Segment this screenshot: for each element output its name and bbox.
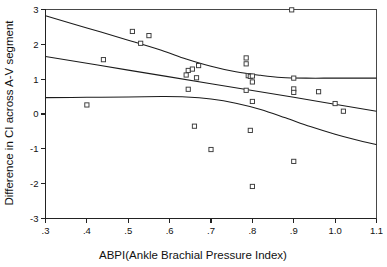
data-point-marker [290,8,294,12]
data-point-marker [250,74,254,78]
data-point-marker [186,87,190,91]
data-point-marker [292,159,296,163]
y-tick-label: 3 [33,4,38,15]
fit-curves-layer [46,16,377,145]
y-tick-label: -2 [30,178,38,189]
regression-line [46,57,377,112]
lower-confidence-band [46,97,377,145]
x-tick-label: .3 [42,225,50,236]
x-axis-ticks [46,219,377,224]
plot-canvas: .3.4.5.6.7.8.91.01.1 -3-2-10123 ABPI(Ank… [0,0,387,267]
x-tick-label: .4 [83,225,91,236]
data-point-marker [139,41,143,45]
scatter-plot-figure: .3.4.5.6.7.8.91.01.1 -3-2-10123 ABPI(Ank… [0,0,387,267]
y-axis-ticks [41,10,46,219]
data-point-marker [186,68,190,72]
y-axis-label: Difference in CI across A-V segment [3,20,15,206]
plot-frame [46,10,377,219]
y-tick-label: -3 [30,213,38,224]
data-points-layer [85,8,346,189]
y-tick-label: 0 [33,108,38,119]
data-point-marker [250,80,254,84]
data-point-marker [292,76,296,80]
x-tick-label: 1.0 [329,225,342,236]
x-axis-tick-labels: .3.4.5.6.7.8.91.01.1 [42,225,384,236]
y-tick-label: -1 [30,143,38,154]
data-point-marker [244,62,248,66]
data-point-marker [250,99,254,103]
data-point-marker [250,184,254,188]
y-tick-label: 2 [33,39,38,50]
data-point-marker [190,67,194,71]
data-point-marker [196,63,200,67]
x-tick-label: .5 [124,225,132,236]
data-point-marker [209,147,213,151]
data-point-marker [244,88,248,92]
x-tick-label: .6 [166,225,174,236]
data-point-marker [147,34,151,38]
data-point-marker [184,73,188,77]
data-point-marker [194,76,198,80]
x-tick-label: 1.1 [370,225,383,236]
data-point-marker [130,29,134,33]
y-axis-tick-labels: -3-2-10123 [30,4,38,224]
upper-confidence-band [46,16,377,78]
x-tick-label: .9 [290,225,298,236]
x-tick-label: .8 [248,225,256,236]
data-point-marker [244,56,248,60]
data-point-marker [192,124,196,128]
data-point-marker [248,128,252,132]
data-point-marker [333,101,337,105]
data-point-marker [316,90,320,94]
x-tick-label: .7 [207,225,215,236]
data-point-marker [101,58,105,62]
data-point-marker [292,90,296,94]
data-point-marker [341,109,345,113]
data-point-marker [85,103,89,107]
x-axis-label: ABPI(Ankle Brachial Pressure Index) [99,249,287,261]
y-tick-label: 1 [33,74,38,85]
